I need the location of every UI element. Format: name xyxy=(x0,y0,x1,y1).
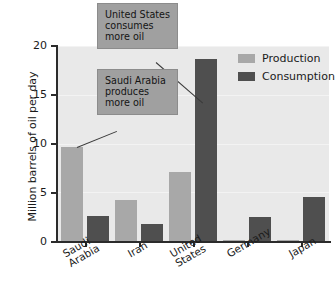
bar-japan-consumption xyxy=(303,197,325,241)
callout-united-states-line3: more oil xyxy=(105,31,171,42)
chart-legend: Production Consumption xyxy=(238,52,335,88)
callout-saudi-arabia-line3: more oil xyxy=(105,97,171,108)
legend-label-consumption: Consumption xyxy=(262,70,335,83)
y-tick-10 xyxy=(51,143,57,145)
bar-united-states-production xyxy=(169,172,191,241)
callout-saudi-arabia: Saudi Arabia produces more oil xyxy=(97,69,178,115)
y-tick-label-20: 20 xyxy=(23,39,47,52)
legend-swatch-consumption xyxy=(238,72,255,81)
x-label-iran: Iran xyxy=(126,240,149,260)
legend-item-consumption: Consumption xyxy=(238,70,335,83)
y-tick-0 xyxy=(51,241,57,243)
legend-swatch-production xyxy=(238,54,255,63)
legend-label-production: Production xyxy=(262,52,321,65)
callout-united-states-line1: United States xyxy=(105,9,171,20)
bar-chart: Million barrels of oil per day xyxy=(0,0,335,292)
y-tick-label-0: 0 xyxy=(23,235,47,248)
bar-iran-production xyxy=(115,200,137,241)
bar-iran-consumption xyxy=(141,224,163,241)
y-tick-15 xyxy=(51,94,57,96)
callout-united-states: United States consumes more oil xyxy=(97,3,178,49)
y-tick-label-10: 10 xyxy=(23,137,47,150)
legend-item-production: Production xyxy=(238,52,335,65)
callout-saudi-arabia-line2: produces xyxy=(105,86,171,97)
y-tick-label-5: 5 xyxy=(23,186,47,199)
y-tick-5 xyxy=(51,192,57,194)
bar-saudi-arabia-production xyxy=(61,147,83,241)
callout-saudi-arabia-line1: Saudi Arabia xyxy=(105,75,171,86)
y-tick-20 xyxy=(51,45,57,47)
bar-united-states-consumption xyxy=(195,59,217,241)
y-tick-label-15: 15 xyxy=(23,88,47,101)
callout-united-states-line2: consumes xyxy=(105,20,171,31)
